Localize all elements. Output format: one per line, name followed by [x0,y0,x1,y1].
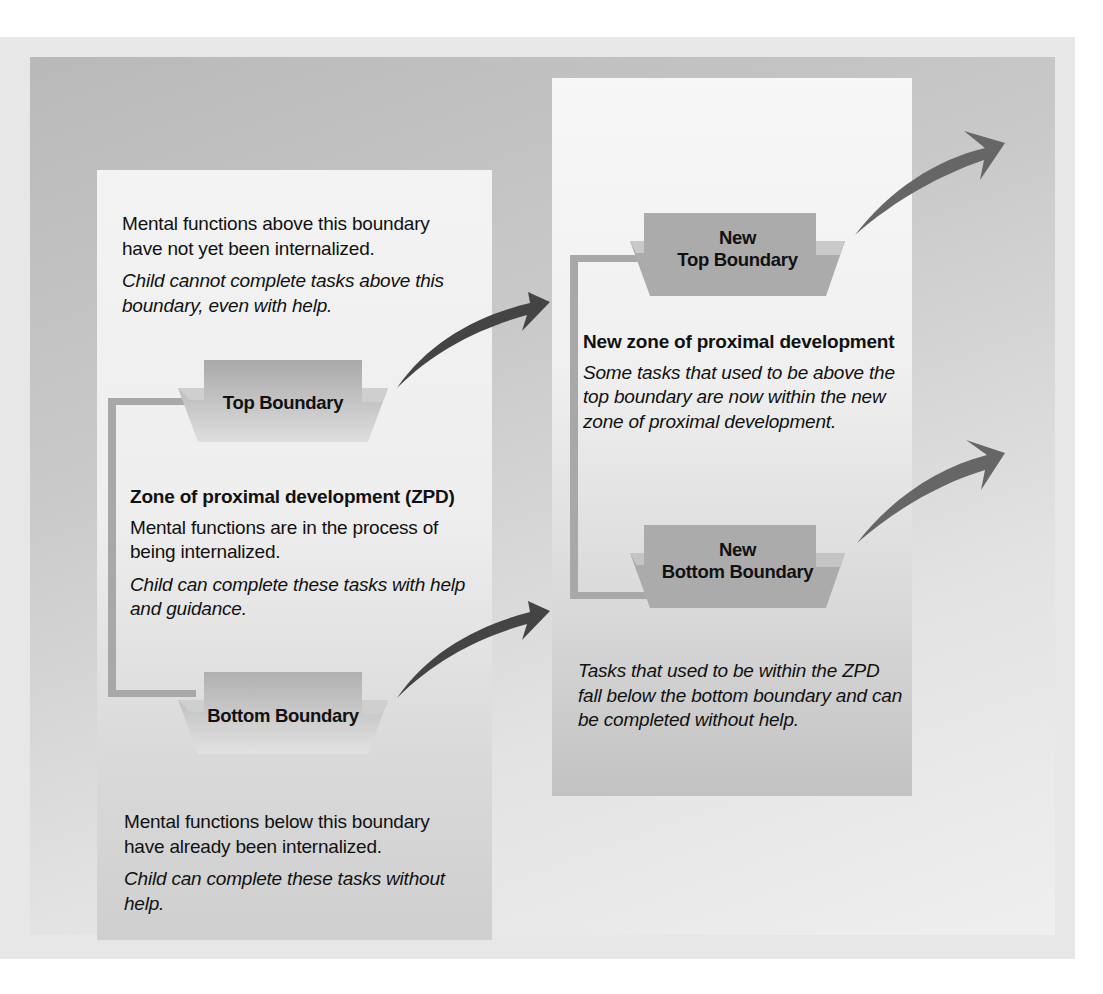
arrow-icon [0,0,1103,994]
